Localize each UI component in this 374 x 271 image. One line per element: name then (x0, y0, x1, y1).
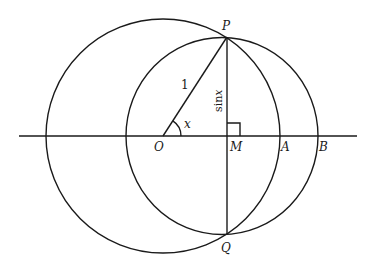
svg-text:sinx: sinx (212, 89, 225, 112)
label-M: M (229, 140, 243, 154)
angle-arc-x (173, 121, 181, 136)
label-O: O (154, 140, 164, 154)
label-sinx: sinx (212, 89, 225, 112)
label-A: A (280, 140, 290, 154)
label-P: P (221, 19, 231, 33)
label-sin-var: x (212, 89, 225, 96)
label-angle-x: x (184, 117, 191, 131)
label-sin: sin (212, 96, 225, 112)
label-radius-1: 1 (181, 78, 189, 92)
label-Q: Q (221, 241, 231, 255)
geometry-diagram: P Q O M A B 1 x sinx (0, 0, 374, 271)
right-angle-marker (227, 123, 240, 136)
label-B: B (318, 140, 328, 154)
